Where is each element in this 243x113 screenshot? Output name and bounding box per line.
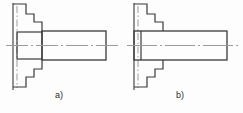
subfigure-label-a: a) (55, 90, 63, 100)
drawing-background (0, 0, 243, 113)
subfigure-label-b: b) (176, 90, 184, 100)
stepped-shaft-drawing (0, 0, 243, 113)
